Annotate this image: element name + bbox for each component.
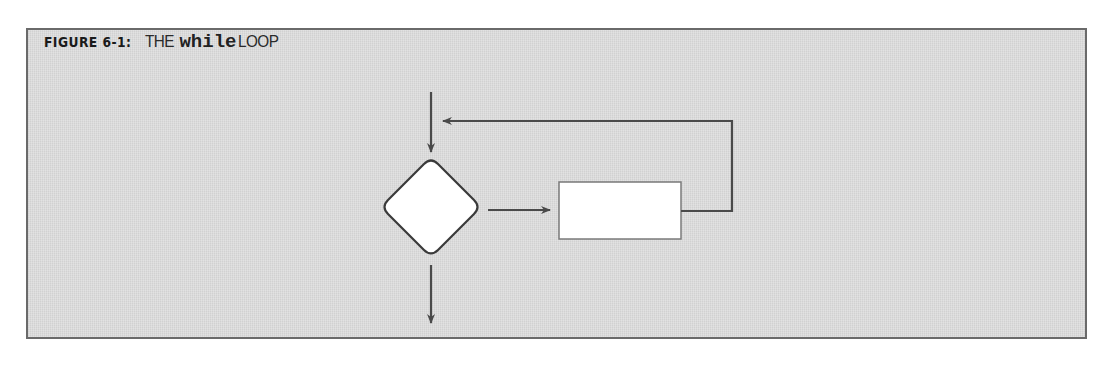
flowchart <box>0 0 1112 366</box>
loop-body-box <box>559 182 681 239</box>
condition-diamond <box>385 161 478 254</box>
